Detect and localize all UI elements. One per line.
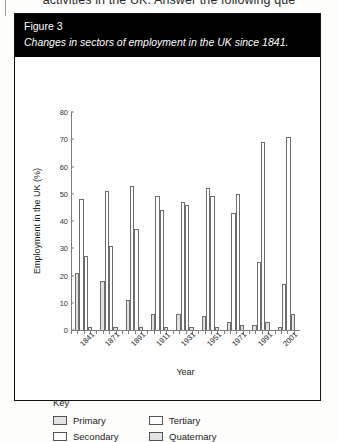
y-tick-label: 80 [60, 108, 68, 117]
bar [84, 256, 88, 330]
figure-body: Employment in the UK (%) 010203040506070… [15, 57, 320, 393]
y-tick-label: 10 [60, 298, 68, 307]
legend: Key PrimaryTertiarySecondaryQuaternary [53, 397, 245, 442]
bar [291, 314, 295, 330]
legend-label: Quaternary [169, 431, 217, 442]
cut-off-question-text: activities in the UK. Answer the followi… [0, 0, 338, 7]
legend-items: PrimaryTertiarySecondaryQuaternary [53, 415, 245, 442]
legend-item-quaternary: Quaternary [149, 431, 245, 442]
legend-swatch-icon [53, 416, 67, 425]
x-label-cell: 1951 [198, 334, 223, 364]
legend-item-primary: Primary [53, 415, 149, 426]
bar-group [147, 112, 172, 330]
bar-group [248, 112, 273, 330]
bar [261, 142, 265, 330]
y-tick-label: 60 [60, 162, 68, 171]
y-tick-label: 40 [60, 217, 68, 226]
y-axis-title-wrap: Employment in the UK (%) [41, 112, 55, 330]
legend-swatch-icon [53, 432, 67, 441]
y-tick-label: 0 [64, 326, 68, 335]
legend-label: Tertiary [169, 415, 200, 426]
bar [160, 210, 164, 330]
x-tick-labels: 184118711891191119311951197119912001 [71, 334, 300, 364]
bar-group [122, 112, 147, 330]
legend-swatch-icon [149, 416, 163, 425]
bar [286, 137, 290, 330]
figure-box: Figure 3 Changes in sectors of employmen… [14, 13, 321, 401]
bar-groups [71, 112, 299, 330]
bar-group [71, 112, 96, 330]
x-label-cell: 1891 [122, 334, 147, 364]
y-tick-label: 20 [60, 271, 68, 280]
figure-number: Figure 3 [24, 19, 311, 33]
figure-header: Figure 3 Changes in sectors of employmen… [15, 14, 320, 57]
x-axis-title: Year [71, 367, 300, 377]
legend-item-tertiary: Tertiary [149, 415, 245, 426]
x-label-cell: 2001 [275, 334, 300, 364]
y-tick-label: 50 [60, 189, 68, 198]
bar-group [198, 112, 223, 330]
bar [109, 246, 113, 330]
figure-caption: Changes in sectors of employment in the … [24, 33, 311, 50]
x-label-cell: 1911 [147, 334, 172, 364]
bar [185, 205, 189, 330]
bar-group [274, 112, 299, 330]
plot-area: 01020304050607080 [71, 112, 299, 330]
legend-title: Key [53, 397, 245, 408]
bar-group [172, 112, 197, 330]
legend-item-secondary: Secondary [53, 431, 149, 442]
bar [134, 229, 138, 330]
x-label-cell: 1991 [249, 334, 274, 364]
bar-group [223, 112, 248, 330]
legend-swatch-icon [149, 432, 163, 441]
y-tick-label: 70 [60, 135, 68, 144]
bar-group [96, 112, 121, 330]
x-label-cell: 1841 [71, 334, 96, 364]
y-axis-title: Employment in the UK (%) [32, 168, 42, 274]
y-tick-label: 30 [60, 244, 68, 253]
x-label-cell: 1871 [96, 334, 121, 364]
bar [236, 194, 240, 330]
legend-label: Primary [73, 415, 106, 426]
bar [210, 196, 214, 330]
x-label-cell: 1931 [173, 334, 198, 364]
legend-label: Secondary [73, 431, 118, 442]
bar [240, 325, 244, 330]
x-label-cell: 1971 [224, 334, 249, 364]
